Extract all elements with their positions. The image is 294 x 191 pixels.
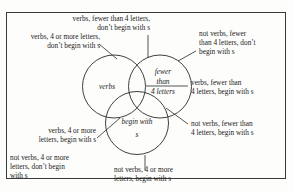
circle-label-fewer-line3: 4 letters (151, 87, 175, 96)
circle-label-fewer-line1: fewer (155, 67, 172, 76)
region-label-not-verbs-begin-with-s: not verbs, 4 or more letters, begin with… (114, 165, 206, 183)
region-label-outside-all: not verbs, 4 or more letters, don’t begi… (10, 153, 106, 180)
circle-label-verbs: verbs (99, 82, 115, 91)
circle-label-begin-line1: begin with (122, 117, 153, 126)
venn-diagram-figure: verbs fewer than 4 letters begin with s … (0, 0, 294, 191)
region-label-verbs-and-fewer: verbs, fewer than 4 letters, don’t begin… (44, 14, 150, 32)
leader-fewer-and-begin (166, 108, 188, 124)
circle-label-fewer-line2: than (156, 77, 169, 86)
region-label-verbs-only: verbs, 4 or more letters, don’t begin wi… (8, 32, 100, 50)
leader-verbs-and-begin (97, 118, 120, 138)
region-label-fewer-and-begin: not verbs, fewer than 4 letters, begin w… (191, 119, 285, 137)
region-label-verbs-fewer-begin: verbs, fewer than 4 letters, begin with … (191, 78, 283, 96)
circle-label-begin-line2: s (136, 130, 139, 139)
region-label-verbs-and-begin: verbs, 4 or more letters, begin with s (6, 126, 96, 144)
leader-fewer-only (178, 51, 196, 61)
region-label-fewer-only: not verbs, fewer than 4 letters, don’t b… (199, 29, 283, 56)
leader-verbs-only (99, 44, 117, 59)
